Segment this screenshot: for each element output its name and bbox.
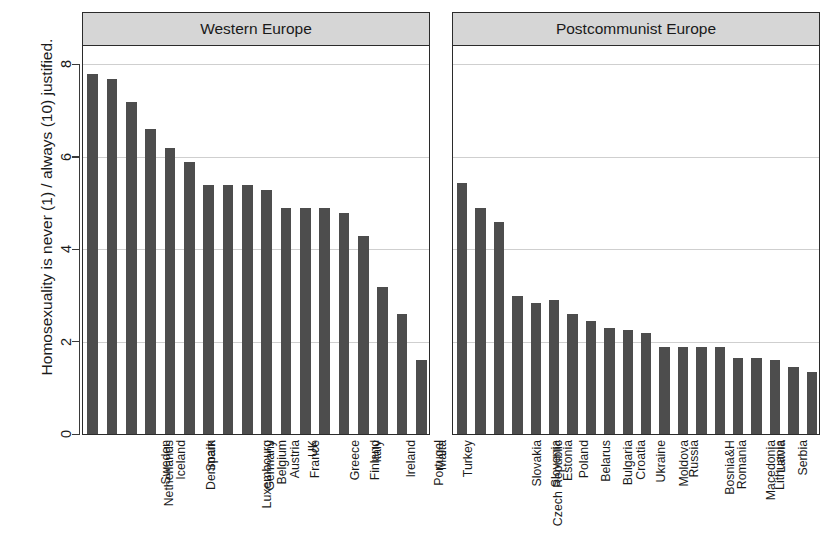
y-tick-label: 8 [59,60,74,68]
bar[interactable] [788,367,798,434]
x-tick-label: Slovakia [531,440,543,486]
bar[interactable] [165,148,176,434]
bar[interactable] [416,360,427,434]
panel-header-label: Western Europe [200,20,312,38]
bar[interactable] [339,213,350,435]
panel-header: Western Europe [82,12,430,46]
bar[interactable] [604,328,614,434]
x-tick-label: Latvia [775,440,787,473]
x-tick-label: Austria [290,440,302,478]
chart-panel-2: Postcommunist Europe [452,12,820,435]
x-tick-label: Belarus [600,440,612,482]
x-tick-label: UK [307,440,319,457]
bar[interactable] [494,222,504,435]
x-tick-label: Iceland [175,440,187,480]
chart-panel-1: Western Europe [82,12,430,435]
bar[interactable] [567,314,577,434]
bar[interactable] [281,208,292,434]
bar[interactable] [107,79,118,435]
bar[interactable] [751,358,761,434]
bar[interactable] [457,183,467,435]
bar[interactable] [715,347,725,435]
bar[interactable] [807,372,817,434]
x-tick-label: Serbia [796,440,808,476]
x-tick-label: Ukraine [656,440,668,482]
bar[interactable] [475,208,485,434]
bar[interactable] [223,185,234,434]
bar[interactable] [319,208,330,434]
x-tick-label: Ireland [405,440,417,478]
x-tick-label: Belgium [276,440,288,484]
bar[interactable] [203,185,214,434]
bar[interactable] [586,321,596,434]
y-tick-label: 2 [59,338,74,346]
bar[interactable] [659,347,669,435]
y-tick-label: 0 [59,430,74,438]
bar[interactable] [531,303,541,435]
bar[interactable] [184,162,195,435]
bar[interactable] [678,347,688,435]
bar[interactable] [512,296,522,435]
bar[interactable] [358,236,369,435]
bar[interactable] [770,360,780,434]
x-tick-label: Russia [688,440,700,478]
x-tick-label: Spain [205,440,217,471]
bar[interactable] [641,333,651,435]
y-tick-label: 4 [59,245,74,253]
bar[interactable] [696,347,706,435]
x-tick-label: Malta [436,440,448,470]
bar[interactable] [145,129,156,434]
bar[interactable] [397,314,408,434]
x-tick-label: Estonia [562,440,574,481]
bar[interactable] [377,287,388,435]
x-tick-label: Germany [263,440,275,491]
x-tick-label: Bosnia&H [723,440,735,495]
y-tick-label: 6 [59,153,74,161]
x-tick-label: Romania [736,440,748,489]
x-tick-label: Sweden [160,440,172,484]
bar-group [453,46,819,434]
x-tick-label: Croatia [635,440,647,480]
panel-header-label: Postcommunist Europe [556,20,716,38]
bar[interactable] [623,330,633,434]
x-tick-label: Greece [350,440,362,480]
bar[interactable] [242,185,253,434]
x-tick-label: Bulgaria [622,440,634,485]
x-tick-label: Italy [371,440,383,463]
chart-root: Homosexuality is never (1) / always (10)… [0,0,824,555]
x-tick-label: Poland [578,440,590,478]
bar-group [83,46,429,434]
bar[interactable] [733,358,743,434]
bar[interactable] [87,74,98,434]
bar[interactable] [126,102,137,435]
bar[interactable] [549,300,559,434]
panel-plot-area [82,46,430,435]
x-tick-label: Turkey [462,440,474,477]
bar[interactable] [300,208,311,434]
y-axis: 02468 [0,0,82,555]
panel-plot-area [452,46,820,435]
bar[interactable] [261,190,272,435]
panel-header: Postcommunist Europe [452,12,820,46]
